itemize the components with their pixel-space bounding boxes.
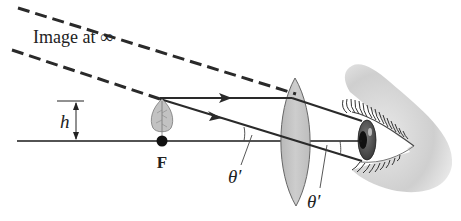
focal-label: F — [157, 153, 167, 172]
focal-point — [157, 136, 168, 147]
magnifier-diagram: F h θ′ θ′ Image at ∞ — [0, 0, 461, 221]
eye-illustration — [343, 64, 453, 192]
leaf-object — [151, 99, 172, 136]
virtual-ray-lower — [12, 50, 160, 99]
angle-label-left: θ′ — [228, 166, 242, 187]
rays — [160, 98, 362, 161]
image-at-infinity-label: Image at ∞ — [33, 27, 113, 47]
h-arrow-top — [73, 102, 79, 110]
angle-label-right: θ′ — [307, 191, 321, 212]
h-arrow-bottom — [73, 132, 79, 140]
eye-highlight — [368, 128, 372, 136]
height-label: h — [60, 111, 70, 132]
central-ray — [160, 99, 362, 161]
pupil — [359, 131, 367, 149]
arrow-central-ray — [208, 111, 222, 121]
virtual-ray-upper — [18, 8, 296, 94]
